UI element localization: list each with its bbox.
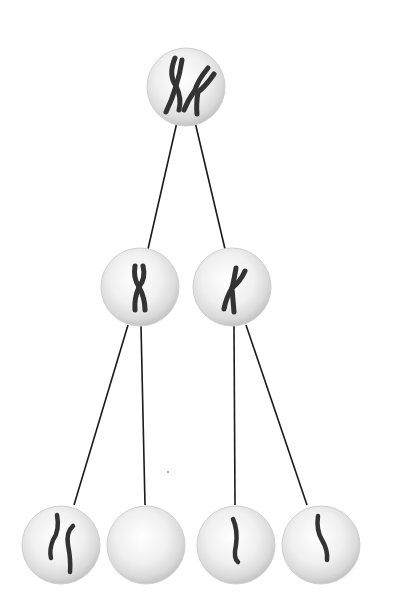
edge-mid-left-to-gamete-1 <box>74 325 128 505</box>
cell-parent <box>147 48 225 126</box>
edge-parent-to-mid-right <box>195 122 225 249</box>
cell-gamete-1 <box>22 506 100 584</box>
cell-gamete-4 <box>282 506 360 584</box>
cell-mid-right <box>193 248 271 326</box>
cell-gamete-2 <box>107 506 185 584</box>
edge-mid-left-to-gamete-2 <box>141 326 145 505</box>
edge-mid-right-to-gamete-3 <box>234 326 235 505</box>
speck-artifact <box>167 471 169 473</box>
connector-lines <box>74 122 307 505</box>
cell-gamete-3 <box>197 506 275 584</box>
cell-mid-left <box>101 248 179 326</box>
edge-mid-right-to-gamete-4 <box>246 325 307 505</box>
edge-parent-to-mid-left <box>148 122 177 249</box>
meiosis-diagram <box>0 0 398 608</box>
